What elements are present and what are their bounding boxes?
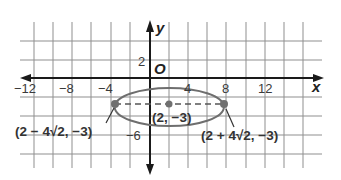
x-tick-label: −8 [59,81,74,96]
x-tick-label: 4 [184,81,191,96]
origin-label: O [154,60,166,77]
x-tick-label: 8 [222,81,229,96]
x-axis-label: x [311,78,321,95]
ellipse-graph: −12 −8 −4 4 8 12 2 −6 y x O (2 − 4√2, −3… [0,0,341,180]
x-tick-label: −12 [14,81,36,96]
center-label: (2, −3) [152,110,191,125]
y-tick-label: 2 [138,54,145,69]
right-vertex-point [220,100,228,108]
y-axis-down-arrow-icon [146,164,154,175]
x-tick-label: 12 [258,81,272,96]
right-vertex-label: (2 + 4√2, −3) [201,128,278,143]
right-vertex-leader [226,109,234,127]
left-vertex-label: (2 − 4√2, −3) [15,124,92,139]
center-point [166,101,173,108]
y-axis-label: y [155,19,165,36]
y-tick-label: −6 [126,128,141,143]
left-vertex-point [111,100,119,108]
y-axis-up-arrow-icon [146,20,154,32]
x-tick-label: −4 [98,81,113,96]
